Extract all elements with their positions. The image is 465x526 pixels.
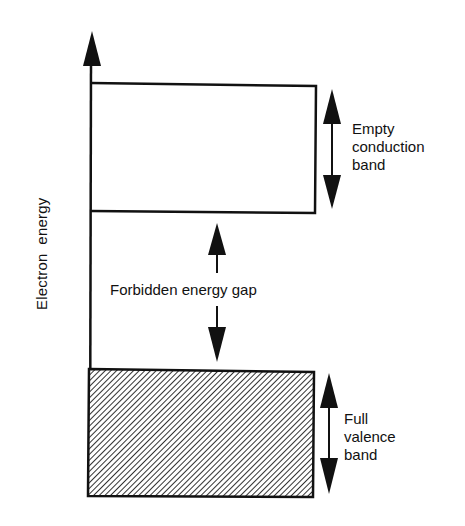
label-line: band: [352, 156, 425, 174]
valence-width-arrow-icon: [320, 373, 338, 494]
gap-arrow-down-icon: [208, 306, 226, 362]
gap-arrow-up-icon: [208, 223, 226, 273]
conduction-band-label: Empty conduction band: [352, 120, 425, 174]
label-line: Full: [344, 410, 396, 428]
label-line: band: [344, 446, 396, 464]
label-line: conduction: [352, 138, 425, 156]
conduction-width-arrow-icon: [323, 89, 341, 209]
label-line: valence: [344, 428, 396, 446]
label-line: Empty: [352, 120, 425, 138]
conduction-band: [91, 83, 316, 213]
axis-label: Electron energy: [33, 198, 50, 310]
valence-band: [88, 369, 314, 497]
axis-arrow-up-icon: [83, 31, 101, 66]
gap-label: Forbidden energy gap: [110, 281, 257, 299]
valence-band-label: Full valence band: [344, 410, 396, 464]
